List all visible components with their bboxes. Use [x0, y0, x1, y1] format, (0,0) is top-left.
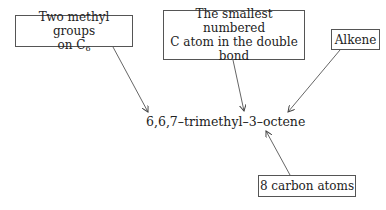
annotation-double-bond-line1: The smallest numbered — [164, 7, 304, 35]
annotation-double-bond-line2: C atom in the double — [170, 35, 298, 49]
annotation-methyl-groups: Two methyl groups on C6 — [15, 15, 133, 47]
annotation-double-bond-line3: bond — [219, 49, 249, 63]
compound-name: 6,6,7–trimethyl–3–octene — [146, 114, 305, 129]
annotation-carbon-atoms: 8 carbon atoms — [258, 175, 356, 197]
arrow-methyl — [113, 47, 148, 112]
subscript-6: 6 — [85, 44, 90, 53]
arrow-carbons — [266, 131, 290, 175]
annotation-methyl-line1: Two methyl groups — [16, 10, 132, 38]
annotation-carbons-label: 8 carbon atoms — [260, 179, 354, 193]
annotation-alkene: Alkene — [331, 29, 380, 50]
annotation-double-bond: The smallest numbered C atom in the doub… — [163, 10, 305, 60]
annotation-alkene-label: Alkene — [335, 33, 377, 47]
arrow-double-bond — [233, 60, 244, 111]
annotation-methyl-line2: on C6 — [57, 38, 90, 52]
